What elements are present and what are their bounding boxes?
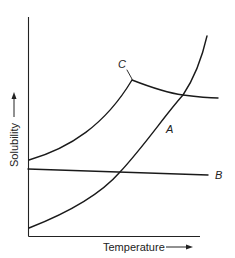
solubility-diagram: C A B Temperature Solubility xyxy=(0,0,235,258)
y-axis-label: Solubility xyxy=(8,122,20,167)
x-axis-arrow-icon xyxy=(186,245,193,250)
curve-c-leader xyxy=(127,70,132,79)
x-axis-label: Temperature xyxy=(103,241,165,253)
curve-c-label: C xyxy=(118,58,126,70)
y-axis-label-group: Solubility xyxy=(8,92,20,167)
curve-a-label: A xyxy=(165,123,173,135)
curve-c-rising xyxy=(29,80,132,160)
y-axis-arrow-icon xyxy=(12,92,17,99)
curve-c-falling xyxy=(132,80,218,98)
curve-b-label: B xyxy=(215,169,222,181)
